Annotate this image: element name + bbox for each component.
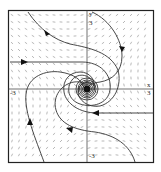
arrow-icon [21, 59, 28, 65]
arrow-icon [44, 30, 50, 36]
x-max-label: 3 [147, 90, 151, 97]
equilibrium-point [84, 86, 91, 93]
x-min-label: -3 [10, 90, 16, 97]
phase-plot [0, 0, 161, 172]
y-max-label: 3 [89, 20, 93, 27]
phase-portrait: y 3 -3 -3 x 3 [0, 0, 161, 172]
arrow-icon [27, 118, 33, 125]
x-axis-label: x [147, 82, 151, 89]
arrow-icon [92, 110, 99, 116]
arrow-icon [66, 127, 73, 133]
arrow-icon [119, 46, 125, 52]
y-min-label: -3 [89, 153, 95, 160]
plot-frame [9, 11, 154, 163]
y-axis-label: y [89, 11, 93, 18]
